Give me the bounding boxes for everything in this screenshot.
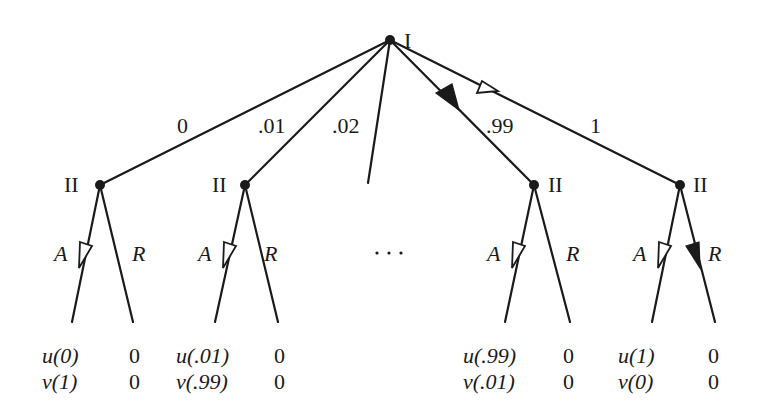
action-reject-4: R xyxy=(708,243,721,265)
payoff-r-u-1: 0 xyxy=(129,343,140,369)
action-reject-1: R xyxy=(132,243,145,265)
payoff-v-2: v(.99) xyxy=(176,369,228,395)
action-accept-1: A xyxy=(54,243,67,265)
action-reject-2: R xyxy=(264,243,277,265)
payoff-r-v-3: 0 xyxy=(563,369,574,395)
payoff-r-v-4: 0 xyxy=(708,369,719,395)
action-accept-2: A xyxy=(198,243,211,265)
payoff-u-2: u(.01) xyxy=(176,343,229,369)
root-node xyxy=(385,35,395,45)
node-ii-2 xyxy=(240,180,250,190)
action-accept-3: A xyxy=(487,243,500,265)
filled-arrow-icon xyxy=(686,242,700,268)
branch-label-0: 0 xyxy=(177,115,188,137)
payoff-r-u-4: 0 xyxy=(708,343,719,369)
open-arrow-icon xyxy=(79,242,92,268)
branch-label-01: .01 xyxy=(258,115,286,137)
node-ii-1 xyxy=(95,180,105,190)
edge-02 xyxy=(368,40,390,183)
ellipsis-icon xyxy=(375,251,402,254)
payoff-v-1: v(1) xyxy=(42,369,77,395)
filled-arrow-icon xyxy=(436,84,459,110)
branch-label-02: .02 xyxy=(332,115,360,137)
player-label-1: II xyxy=(64,174,79,196)
edge-reject-3 xyxy=(534,185,570,322)
action-reject-3: R xyxy=(566,243,579,265)
payoff-u-1: u(0) xyxy=(42,343,79,369)
branch-label-1: 1 xyxy=(590,115,601,137)
player-label-2: II xyxy=(212,174,227,196)
player-label-3: II xyxy=(548,174,563,196)
edge-1 xyxy=(390,40,680,185)
edge-reject-1 xyxy=(100,185,133,322)
player-label-4: II xyxy=(693,174,708,196)
payoff-r-u-3: 0 xyxy=(563,343,574,369)
payoff-r-v-1: 0 xyxy=(129,369,140,395)
payoff-u-4: u(1) xyxy=(618,343,655,369)
payoff-v-4: v(0) xyxy=(618,369,653,395)
payoff-r-u-2: 0 xyxy=(274,343,285,369)
open-arrow-icon xyxy=(223,242,236,268)
node-ii-4 xyxy=(675,180,685,190)
branch-label-99: .99 xyxy=(486,115,514,137)
payoff-u-3: u(.99) xyxy=(463,343,516,369)
root-player-label: I xyxy=(404,30,411,52)
action-accept-4: A xyxy=(633,243,646,265)
payoff-v-3: v(.01) xyxy=(463,369,515,395)
open-arrow-icon xyxy=(512,242,525,268)
open-arrow-icon xyxy=(477,81,498,93)
payoff-r-v-2: 0 xyxy=(274,369,285,395)
node-ii-3 xyxy=(529,180,539,190)
